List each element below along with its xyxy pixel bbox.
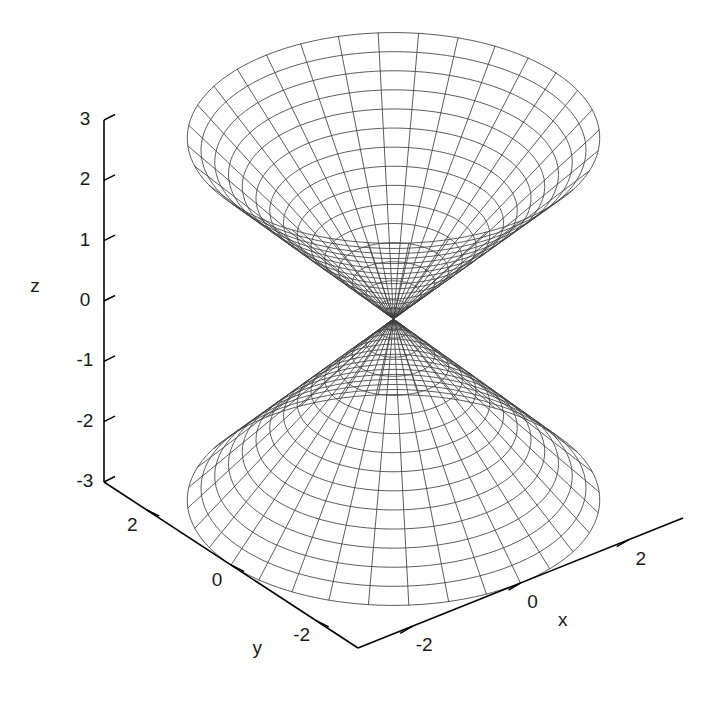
z-axis-label: z <box>30 275 40 296</box>
z-tick-4 <box>104 356 115 362</box>
mesh-generatrix <box>188 319 394 508</box>
y-tick-2 <box>316 620 329 627</box>
x-tick-label-2: 2 <box>636 548 647 569</box>
surface-mesh <box>187 33 599 606</box>
mesh-ring <box>256 369 531 510</box>
z-tick-label-1: 2 <box>80 168 91 189</box>
mesh-generatrix <box>267 55 394 319</box>
z-tick-3 <box>104 296 115 302</box>
z-tick-6 <box>104 477 115 483</box>
z-tick-label-0: 3 <box>80 108 91 129</box>
z-tick-1 <box>104 175 115 181</box>
mesh-generatrix <box>188 146 394 319</box>
mesh-generatrix <box>394 319 409 605</box>
mesh-generatrix <box>394 319 590 533</box>
mesh-generatrix <box>394 110 593 319</box>
mesh-generatrix <box>394 319 600 492</box>
axes-group <box>104 115 683 649</box>
mesh-ring <box>215 71 572 254</box>
mesh-ring <box>215 385 572 568</box>
z-tick-label-4: -1 <box>77 349 94 370</box>
axis-labels-group: 3210-1-2-3z20-2y-202x <box>30 108 646 658</box>
mesh-generatrix <box>394 130 600 319</box>
mesh-generatrix <box>394 319 574 552</box>
mesh-generatrix <box>394 319 521 583</box>
y-tick-label-2: -2 <box>293 624 310 645</box>
mesh-generatrix <box>259 218 394 319</box>
x-axis-label: x <box>558 609 568 630</box>
z-tick-0 <box>104 115 115 121</box>
mesh-ring <box>201 52 586 249</box>
z-tick-5 <box>104 416 115 422</box>
mesh-ring <box>187 33 599 244</box>
y-tick-label-1: 0 <box>212 569 223 590</box>
x-tick-label-0: -2 <box>416 634 433 655</box>
z-tick-label-3: 0 <box>80 289 91 310</box>
y-tick-0 <box>146 510 159 517</box>
z-tick-label-5: -2 <box>77 410 94 431</box>
mesh-ring <box>242 374 544 529</box>
z-tick-2 <box>104 235 115 241</box>
mesh-generatrix <box>394 319 550 569</box>
plot-root: 3210-1-2-3z20-2y-202x <box>0 0 716 714</box>
surface-plot-svg: 3210-1-2-3z20-2y-202x <box>0 0 716 714</box>
z-tick-label-6: -3 <box>77 470 94 491</box>
z-tick-label-2: 1 <box>80 229 91 250</box>
mesh-generatrix <box>368 319 393 605</box>
x-tick-label-1: 0 <box>527 591 538 612</box>
mesh-generatrix <box>237 69 393 319</box>
mesh-ring <box>187 395 599 606</box>
mesh-generatrix <box>214 86 394 319</box>
y-tick-1 <box>231 565 244 572</box>
mesh-ring <box>201 390 586 587</box>
y-tick-label-0: 2 <box>127 514 138 535</box>
y-axis-label: y <box>253 637 263 658</box>
mesh-generatrix <box>394 33 419 319</box>
mesh-ring <box>256 128 531 269</box>
mesh-generatrix <box>198 105 394 319</box>
mesh-ring <box>242 109 544 264</box>
mesh-generatrix <box>195 319 394 528</box>
mesh-generatrix <box>378 33 393 319</box>
